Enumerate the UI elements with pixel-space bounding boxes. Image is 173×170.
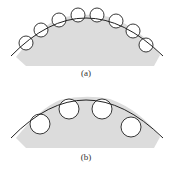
figure-a: (a) bbox=[11, 8, 163, 78]
figure-b: (b) bbox=[11, 97, 163, 162]
diagram-canvas: (a) (b) bbox=[0, 0, 173, 170]
label-a: (a) bbox=[81, 68, 91, 78]
label-b: (b) bbox=[81, 152, 92, 162]
gray-region-a bbox=[16, 15, 160, 66]
circle-b4 bbox=[121, 117, 141, 137]
circle-b1 bbox=[30, 114, 50, 134]
circle-a4 bbox=[71, 8, 85, 22]
